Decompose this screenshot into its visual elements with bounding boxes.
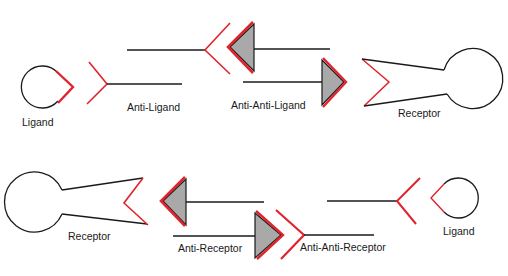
ligand-receptor-diagram: Ligand Anti-Ligand Anti-Anti-Ligand (0, 0, 508, 276)
anti-ligand-shape (87, 62, 182, 104)
top-receptor-shape (362, 49, 503, 109)
bottom-receptor-label: Receptor (68, 230, 111, 242)
bottom-ligand-shape (431, 178, 478, 218)
top-receptor-label: Receptor (398, 107, 441, 119)
top-ligand-label: Ligand (22, 116, 54, 128)
bottom-row: Receptor Anti-Receptor Anti-Anti-Recepto… (5, 172, 479, 259)
anti-receptor-left-triangle (161, 177, 264, 226)
bottom-ligand-label: Ligand (443, 225, 475, 237)
anti-ligand-label: Anti-Ligand (127, 101, 180, 113)
anti-receptor-label: Anti-Receptor (178, 242, 243, 254)
anti-anti-ligand-label: Anti-Anti-Ligand (231, 99, 306, 111)
anti-anti-receptor-label: Anti-Anti-Receptor (300, 241, 386, 253)
anti-anti-ligand-left-triangle (228, 22, 330, 73)
bottom-receptor-shape (5, 172, 148, 232)
anti-ligand-upper-shape (127, 23, 230, 74)
top-row: Ligand Anti-Ligand Anti-Anti-Ligand (21, 22, 502, 128)
anti-anti-receptor-upper-shape (327, 178, 420, 224)
top-ligand-shape (21, 66, 73, 108)
